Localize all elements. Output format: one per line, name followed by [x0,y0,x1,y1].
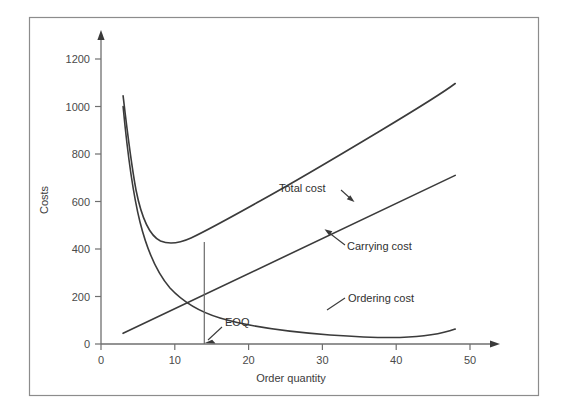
x-tick-label: 40 [390,354,402,366]
carrying-cost-line [123,175,455,333]
x-tick-label: 30 [316,354,328,366]
carrying-cost-leader-line [328,232,345,245]
chart-canvas: 0 200 400 600 800 1000 1200 0 10 20 30 4… [0,0,563,412]
ordering-cost-label: Ordering cost [348,292,414,304]
total-cost-curve [123,84,455,244]
eoq-leader-arrow [205,340,216,344]
eoq-chart-figure: 0 200 400 600 800 1000 1200 0 10 20 30 4… [0,0,563,412]
x-axis-tick-labels: 0 10 20 30 40 50 [98,354,476,366]
y-tick-label: 200 [72,291,90,303]
y-tick-label: 600 [72,196,90,208]
y-tick-label: 0 [84,338,90,350]
total-cost-label: Total cost [279,182,325,194]
carrying-cost-label: Carrying cost [347,240,412,252]
x-tick-label: 0 [98,354,104,366]
x-tick-label: 10 [169,354,181,366]
y-axis-title: Costs [38,185,50,214]
figure-border [30,18,539,396]
ordering-cost-leader-line [327,298,345,310]
y-axis-arrowhead [97,30,104,40]
y-tick-label: 1000 [66,101,90,113]
y-axis-ticks [95,59,101,344]
y-axis-tick-labels: 0 200 400 600 800 1000 1200 [66,53,90,350]
x-axis-ticks [101,344,470,350]
eoq-leader-line [208,327,222,340]
y-tick-label: 400 [72,243,90,255]
x-tick-label: 20 [242,354,254,366]
x-tick-label: 50 [464,354,476,366]
eoq-label: EOQ [225,316,250,328]
y-tick-label: 1200 [66,53,90,65]
y-tick-label: 800 [72,148,90,160]
x-axis-title: Order quantity [256,372,326,384]
x-axis-arrowhead [490,340,500,347]
